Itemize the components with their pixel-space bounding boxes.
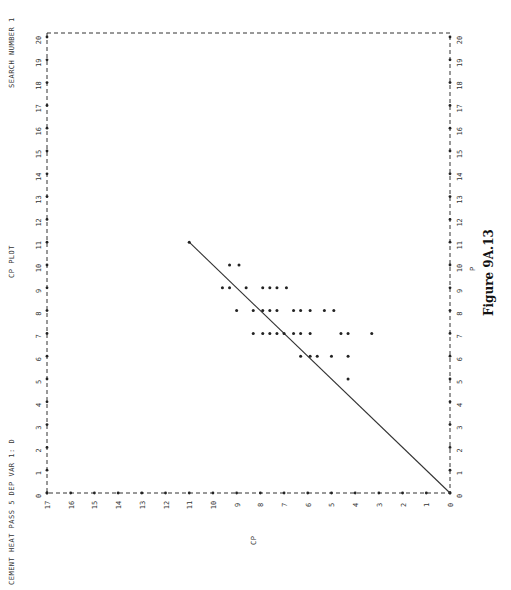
- cp-tick-label: 3: [376, 503, 384, 507]
- p-tick-label-right: 8: [456, 311, 464, 315]
- p-tick-label-right: 16: [456, 127, 464, 135]
- data-point: [252, 309, 255, 312]
- p-tick-label-right: 3: [456, 425, 464, 429]
- data-point: [268, 286, 271, 289]
- p-tick-label-left: 12: [35, 218, 43, 226]
- p-tick-mark-right: [449, 378, 452, 381]
- p-tick-label-right: 6: [456, 357, 464, 361]
- data-point: [309, 309, 312, 312]
- data-point: [323, 309, 326, 312]
- p-tick-mark-right: [449, 446, 452, 449]
- cp-tick-mark: [140, 492, 143, 495]
- data-point: [332, 309, 335, 312]
- data-point: [316, 355, 319, 358]
- data-point: [261, 309, 264, 312]
- p-tick-label-right: 5: [456, 380, 464, 384]
- p-tick-mark-right: [449, 332, 452, 335]
- p-tick-label-right: 19: [456, 59, 464, 67]
- data-point: [235, 309, 238, 312]
- data-point: [275, 332, 278, 335]
- p-tick-mark-right: [449, 36, 452, 39]
- data-point: [330, 355, 333, 358]
- plot-frame: [47, 33, 450, 493]
- cp-tick-mark: [330, 492, 333, 495]
- p-tick-label-left: 15: [35, 150, 43, 158]
- p-tick-mark-right: [449, 309, 452, 312]
- p-tick-mark-left: [46, 423, 49, 426]
- p-tick-label-right: 1: [456, 471, 464, 475]
- p-tick-label-left: 16: [35, 127, 43, 135]
- p-tick-label-right: 9: [456, 289, 464, 293]
- p-tick-mark-left: [46, 378, 49, 381]
- data-point: [238, 264, 241, 267]
- cp-plot-chart: CEMENT HEAT PASS 5 DEP VAR 1: D CP PLOT …: [0, 0, 511, 590]
- cp-tick-label: 4: [352, 503, 360, 507]
- cp-tick-mark: [69, 492, 72, 495]
- p-tick-label-left: 0: [35, 494, 43, 498]
- p-tick-mark-right: [449, 400, 452, 403]
- data-point: [347, 332, 350, 335]
- p-tick-label-left: 9: [35, 289, 43, 293]
- data-point: [275, 309, 278, 312]
- cp-axis-ticks: 01234567891011121314151617: [44, 492, 455, 510]
- p-tick-label-left: 10: [35, 264, 43, 272]
- data-point: [299, 355, 302, 358]
- p-tick-label-left: 6: [35, 357, 43, 361]
- p-tick-mark-right: [449, 355, 452, 358]
- cp-tick-label: 16: [68, 501, 76, 509]
- p-tick-label-right: 18: [456, 81, 464, 89]
- p-tick-label-left: 18: [35, 81, 43, 89]
- p-tick-label-left: 2: [35, 448, 43, 452]
- p-tick-mark-left: [46, 218, 49, 221]
- data-point: [275, 286, 278, 289]
- data-point: [292, 309, 295, 312]
- data-point: [283, 332, 286, 335]
- p-tick-mark-right: [449, 104, 452, 107]
- data-point: [309, 332, 312, 335]
- p-tick-label-left: 1: [35, 471, 43, 475]
- p-tick-mark-left: [46, 36, 49, 39]
- reference-line-cp-equals-p: [189, 242, 450, 493]
- p-tick-mark-right: [449, 423, 452, 426]
- p-tick-mark-left: [46, 469, 49, 472]
- data-point: [370, 332, 373, 335]
- p-tick-mark-left: [46, 400, 49, 403]
- p-tick-label-left: 17: [35, 104, 43, 112]
- cp-tick-label: 10: [210, 501, 218, 509]
- header-center-label: CP PLOT: [8, 245, 16, 278]
- p-axis-ticks-right: 01234567891011121314151617181920: [449, 36, 464, 499]
- data-point: [285, 286, 288, 289]
- p-tick-mark-left: [46, 58, 49, 61]
- p-tick-mark-left: [46, 127, 49, 130]
- cp-tick-label: 9: [234, 503, 242, 507]
- p-tick-mark-right: [449, 286, 452, 289]
- cp-tick-mark: [401, 492, 404, 495]
- p-tick-mark-right: [449, 81, 452, 84]
- cp-tick-label: 8: [257, 503, 265, 507]
- p-tick-mark-left: [46, 309, 49, 312]
- data-point: [188, 241, 191, 244]
- cp-tick-label: 1: [423, 503, 431, 507]
- p-tick-mark-left: [46, 81, 49, 84]
- cp-tick-mark: [117, 492, 120, 495]
- p-tick-mark-left: [46, 264, 49, 267]
- p-tick-label-right: 10: [456, 264, 464, 272]
- data-point: [268, 309, 271, 312]
- cp-tick-label: 6: [305, 503, 313, 507]
- p-tick-label-right: 0: [456, 494, 464, 498]
- p-tick-mark-right: [449, 58, 452, 61]
- p-tick-label-right: 14: [456, 173, 464, 181]
- p-tick-label-left: 11: [35, 241, 43, 249]
- p-tick-label-left: 19: [35, 59, 43, 67]
- p-tick-mark-right: [449, 127, 452, 130]
- p-tick-label-left: 20: [35, 36, 43, 44]
- p-tick-label-left: 14: [35, 173, 43, 181]
- data-point: [261, 286, 264, 289]
- p-tick-mark-left: [46, 286, 49, 289]
- cp-tick-mark: [283, 492, 286, 495]
- p-tick-mark-right: [449, 218, 452, 221]
- header-left-label: CEMENT HEAT PASS 5 DEP VAR 1: D: [8, 439, 16, 585]
- p-tick-label-right: 7: [456, 334, 464, 338]
- p-tick-mark-right: [449, 150, 452, 153]
- p-axis-ticks-left: 01234567891011121314151617181920: [35, 36, 48, 499]
